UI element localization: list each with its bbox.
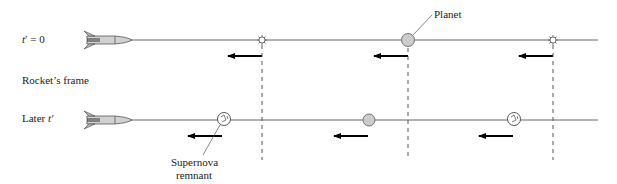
planet-icon: [363, 114, 375, 126]
remnant-label-line1: Supernova: [171, 156, 218, 168]
bottom-row-label: Later t′: [22, 112, 53, 124]
rocket-icon: [84, 31, 132, 49]
planet-icon: [402, 34, 415, 47]
frame-label: Rocket’s frame: [22, 74, 89, 86]
planet-leader-line: [413, 15, 432, 35]
supernova-remnant-icon: [508, 113, 521, 126]
remnant-label-line2: remnant: [176, 169, 212, 181]
bottom-row: [84, 111, 598, 155]
supernova-remnant-icon: [218, 113, 231, 126]
supernova-star-icon: [257, 35, 267, 45]
top-row: [84, 15, 598, 56]
planet-label: Planet: [434, 8, 462, 20]
diagram-canvas: [0, 0, 617, 184]
supernova-star-icon: [548, 35, 558, 45]
dashed-guides: [262, 45, 553, 160]
rocket-icon: [84, 111, 132, 129]
top-row-label: t′ = 0: [22, 33, 45, 45]
remnant-leader-line: [203, 125, 220, 155]
